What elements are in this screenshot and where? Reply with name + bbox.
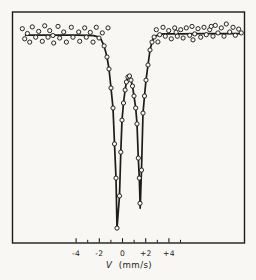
x-tick-label: 0 xyxy=(120,249,125,258)
data-point xyxy=(154,28,158,32)
data-point xyxy=(213,23,217,27)
data-point xyxy=(83,26,87,30)
data-point xyxy=(161,25,165,29)
data-point xyxy=(219,26,223,30)
data-point xyxy=(233,33,237,37)
data-point xyxy=(139,168,143,172)
data-point xyxy=(52,41,56,45)
data-point xyxy=(138,201,142,205)
data-point xyxy=(193,32,197,36)
data-point xyxy=(64,40,68,44)
data-point xyxy=(224,22,228,26)
data-point xyxy=(191,38,195,42)
data-point xyxy=(135,122,139,126)
data-point xyxy=(115,226,119,230)
data-point xyxy=(102,44,106,48)
data-point xyxy=(107,67,111,71)
mossbauer-spectrum-figure: -4-20+2+4 V (mm/s) xyxy=(0,0,256,280)
x-axis-title: V (mm/s) xyxy=(106,260,152,270)
data-point xyxy=(97,36,101,40)
data-point xyxy=(37,29,41,33)
data-point xyxy=(62,30,66,34)
data-point xyxy=(56,24,60,28)
x-tick-label: -4 xyxy=(72,249,80,258)
data-point xyxy=(88,30,92,34)
data-point xyxy=(132,94,136,98)
data-point xyxy=(123,88,127,92)
data-point xyxy=(141,111,145,115)
data-point xyxy=(48,29,52,33)
x-axis-symbol: V xyxy=(106,260,113,270)
data-point xyxy=(156,40,160,44)
data-point xyxy=(199,35,203,39)
data-point xyxy=(114,176,118,180)
data-point xyxy=(237,27,241,31)
data-point xyxy=(188,33,192,37)
data-point xyxy=(127,74,131,78)
data-point xyxy=(196,27,200,31)
data-point xyxy=(119,150,123,154)
data-point xyxy=(175,34,179,38)
data-point xyxy=(211,34,215,38)
x-tick-label: +4 xyxy=(163,249,175,258)
data-point xyxy=(150,40,154,44)
data-point xyxy=(202,25,206,29)
data-point xyxy=(91,40,95,44)
data-point xyxy=(109,86,113,90)
data-point xyxy=(121,101,125,105)
data-point xyxy=(142,94,146,98)
data-point xyxy=(167,29,171,33)
data-point xyxy=(146,63,150,67)
data-point xyxy=(40,39,44,43)
data-point xyxy=(30,25,34,29)
data-point xyxy=(58,36,62,40)
data-point xyxy=(25,31,29,35)
data-point xyxy=(106,26,110,30)
x-tick-label: -2 xyxy=(95,249,103,258)
data-point xyxy=(152,35,156,39)
data-point xyxy=(84,35,88,39)
data-point xyxy=(216,31,220,35)
data-point xyxy=(144,78,148,82)
data-point xyxy=(100,31,104,35)
data-point xyxy=(231,25,235,29)
data-point xyxy=(137,176,141,180)
data-point xyxy=(130,84,134,88)
data-point xyxy=(158,33,162,37)
data-point xyxy=(209,24,213,28)
data-point xyxy=(173,26,177,30)
figure-page: -4-20+2+4 V (mm/s) xyxy=(0,0,256,280)
data-point xyxy=(28,40,32,44)
data-point xyxy=(46,35,50,39)
data-point xyxy=(111,106,115,110)
data-point xyxy=(34,35,38,39)
data-point xyxy=(190,24,194,28)
data-point xyxy=(105,55,109,59)
data-point xyxy=(43,24,47,28)
data-point xyxy=(51,33,55,37)
data-point xyxy=(71,35,75,39)
data-point xyxy=(136,156,140,160)
data-point xyxy=(129,78,133,82)
data-point xyxy=(124,80,128,84)
spectrum-plot: -4-20+2+4 V (mm/s) xyxy=(0,0,256,280)
data-point xyxy=(120,118,124,122)
data-point xyxy=(134,106,138,110)
data-point xyxy=(169,37,173,41)
data-point xyxy=(204,33,208,37)
data-point xyxy=(20,27,24,31)
fit-curve xyxy=(26,34,242,229)
data-point xyxy=(179,28,183,32)
plot-border xyxy=(13,12,245,243)
data-point xyxy=(222,34,226,38)
data-point xyxy=(228,30,232,34)
data-point xyxy=(239,31,243,35)
data-point xyxy=(181,36,185,40)
data-point xyxy=(117,194,121,198)
data-point xyxy=(112,142,116,146)
data-point xyxy=(184,26,188,30)
data-point xyxy=(163,34,167,38)
x-tick-label: +2 xyxy=(140,249,152,258)
data-point xyxy=(148,48,152,52)
x-axis-unit: (mm/s) xyxy=(119,260,152,270)
